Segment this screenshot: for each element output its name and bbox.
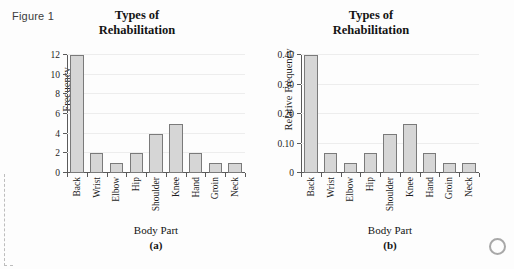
x-label-slot: Hip [126, 177, 146, 223]
subcaption-a: (a) [67, 239, 245, 251]
y-axis-tick-label: 0.20 [277, 109, 294, 119]
x-axis-label-wrist: Wrist [92, 177, 102, 198]
y-axis-tick-label: 8 [55, 89, 60, 99]
x-label-slot: Groin [439, 177, 459, 223]
bar-wrist [324, 153, 337, 173]
x-label-slot: Groin [205, 177, 225, 223]
bar-slot [400, 55, 420, 173]
chart-panel-a: Types of Rehabilitation Frequency 024681… [14, 0, 260, 269]
x-label-slot: Neck [459, 177, 479, 223]
y-axis-tick-label: 12 [51, 50, 61, 60]
bar-slot [225, 55, 245, 173]
bar-elbow [344, 163, 357, 173]
bar-neck [228, 163, 241, 173]
bar-slot [301, 55, 321, 173]
bar-slot [107, 55, 127, 173]
y-axis-tick-label: 6 [55, 109, 60, 119]
x-axis-label-wrist: Wrist [326, 177, 336, 198]
bar-slot [459, 55, 479, 173]
x-label-slot: Neck [225, 177, 245, 223]
x-label-slot: Hip [360, 177, 380, 223]
x-label-slot: Elbow [107, 177, 127, 223]
plot-area-a: 024681012 [67, 55, 245, 173]
bar-back [304, 55, 317, 173]
bar-slot [67, 55, 87, 173]
bar-knee [169, 124, 182, 173]
bar-slot [341, 55, 361, 173]
bar-slot [126, 55, 146, 173]
x-label-slot: Back [301, 177, 321, 223]
chart-panel-b: Types of Rehabilitation Relative Frequen… [248, 0, 494, 269]
y-axis-tick-label: 0 [55, 168, 60, 178]
bar-back [70, 55, 83, 173]
x-axis-label-neck: Neck [230, 177, 240, 197]
bar-hand [423, 153, 436, 173]
y-axis-title-b: Relative Frequency [283, 31, 294, 149]
y-axis-tick-label: 0.30 [277, 80, 294, 90]
bar-groin [443, 163, 456, 173]
y-axis-tick-label: 0.40 [277, 50, 294, 60]
x-axis-labels-a: BackWristElbowHipShoulderKneeHandGroinNe… [67, 177, 245, 223]
x-axis-title-a: Body Part [67, 224, 245, 236]
plot-area-b: 00.100.200.300.40 [301, 55, 479, 173]
chart-title-a-line2: Rehabilitation [14, 23, 260, 38]
bar-slot [360, 55, 380, 173]
y-axis-tick-label: 2 [55, 148, 60, 158]
page-crop-mark-horizontal [4, 265, 13, 266]
bar-slot [439, 55, 459, 173]
x-axis-label-hip: Hip [365, 177, 375, 191]
x-label-slot: Shoulder [146, 177, 166, 223]
bar-slot [420, 55, 440, 173]
x-axis-label-back: Back [306, 177, 316, 197]
bar-slot [186, 55, 206, 173]
y-axis-tick-label: 0.10 [277, 139, 294, 149]
bar-slot [146, 55, 166, 173]
page-crop-mark-vertical [4, 174, 5, 266]
x-axis-labels-b: BackWristElbowHipShoulderKneeHandGroinNe… [301, 177, 479, 223]
x-label-slot: Hand [420, 177, 440, 223]
y-axis-tick-label: 4 [55, 129, 60, 139]
x-label-slot: Knee [400, 177, 420, 223]
x-axis-tick [479, 173, 480, 177]
x-axis-label-hip: Hip [131, 177, 141, 191]
x-axis-label-elbow: Elbow [111, 177, 121, 202]
x-axis-label-knee: Knee [171, 177, 181, 197]
x-axis-label-groin: Groin [444, 177, 454, 199]
bar-hip [130, 153, 143, 173]
x-axis-label-shoulder: Shoulder [385, 177, 395, 211]
bar-slot [87, 55, 107, 173]
x-axis-label-elbow: Elbow [345, 177, 355, 202]
subcaption-b: (b) [301, 239, 479, 251]
x-axis-label-back: Back [72, 177, 82, 197]
x-axis-label-shoulder: Shoulder [151, 177, 161, 211]
x-axis-title-b: Body Part [301, 224, 479, 236]
bar-slot [380, 55, 400, 173]
x-axis-tick [245, 173, 246, 177]
x-label-slot: Back [67, 177, 87, 223]
x-axis-label-hand: Hand [191, 177, 201, 198]
chart-title-a: Types of Rehabilitation [14, 8, 260, 38]
x-axis-label-hand: Hand [425, 177, 435, 198]
bar-slot [166, 55, 186, 173]
x-label-slot: Shoulder [380, 177, 400, 223]
bar-groin [209, 163, 222, 173]
bar-series-a [67, 55, 245, 173]
bar-neck [462, 163, 475, 173]
bar-slot [321, 55, 341, 173]
bar-slot [205, 55, 225, 173]
bar-wrist [90, 153, 103, 173]
x-axis-label-groin: Groin [210, 177, 220, 199]
x-label-slot: Elbow [341, 177, 361, 223]
x-label-slot: Hand [186, 177, 206, 223]
y-axis-tick-label: 10 [51, 70, 61, 80]
bar-shoulder [149, 134, 162, 173]
chart-title-b-line1: Types of [349, 8, 394, 22]
x-label-slot: Knee [166, 177, 186, 223]
y-axis-tick-label: 0 [289, 168, 294, 178]
x-axis-label-neck: Neck [464, 177, 474, 197]
bar-elbow [110, 163, 123, 173]
bar-series-b [301, 55, 479, 173]
x-axis-label-knee: Knee [405, 177, 415, 197]
x-label-slot: Wrist [87, 177, 107, 223]
x-label-slot: Wrist [321, 177, 341, 223]
